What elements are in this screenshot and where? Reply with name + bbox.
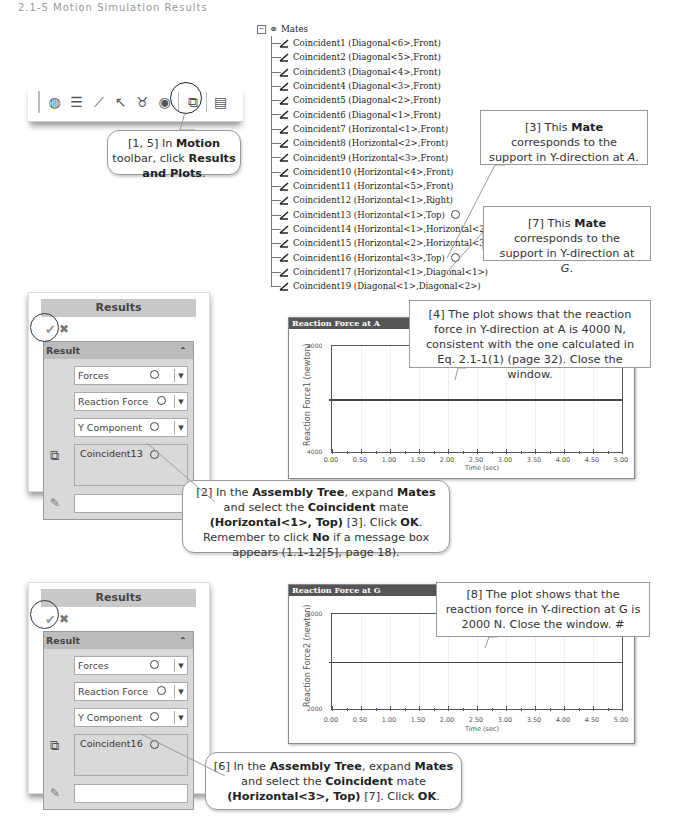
callout-text: corresponds to the support in Y-directio… xyxy=(489,136,628,164)
tree-item-label: Coincident16 (Horizontal<3>,Top) xyxy=(293,253,445,263)
subcategory-select[interactable]: Reaction Force▼ xyxy=(74,392,188,411)
marker-circle xyxy=(150,450,159,459)
x-tick-label: 1.50 xyxy=(406,456,430,464)
x-tick-mark xyxy=(550,451,551,454)
coincident-mate-icon xyxy=(279,167,289,177)
assembly-tree: − ⚭ Mates Coincident1 (Diagonal<6>,Front… xyxy=(257,22,495,293)
page-header: 2.1-5 Motion Simulation Results xyxy=(18,2,208,13)
selection-list[interactable]: Coincident13 xyxy=(74,444,188,486)
properties-icon[interactable]: ▤ xyxy=(212,94,229,111)
x-tick-label: 2.00 xyxy=(435,456,459,464)
tree-item-mate[interactable]: Coincident11 (Horizontal<5>,Front) xyxy=(257,179,495,193)
x-tick-label: 4.50 xyxy=(580,716,604,724)
chevron-down-icon[interactable]: ▼ xyxy=(174,659,187,672)
tree-root-mates[interactable]: − ⚭ Mates xyxy=(257,22,495,36)
chevron-down-icon[interactable]: ▼ xyxy=(174,421,187,434)
component-select[interactable]: Y Component▼ xyxy=(74,708,188,727)
callout-step-3: [3] This Mate corresponds to the support… xyxy=(480,110,648,165)
panel-title: Results xyxy=(41,589,196,607)
result-group-label: Result xyxy=(46,345,80,356)
component-selection-icon: ⧉ xyxy=(50,448,59,464)
tree-item-mate[interactable]: Coincident19 (Diagonal<1>,Diagonal<2>) xyxy=(257,279,495,293)
callout-bold: Mate xyxy=(571,121,603,134)
coincident-mate-icon xyxy=(279,252,289,262)
tree-item-mate[interactable]: Coincident4 (Diagonal<3>,Front) xyxy=(257,79,495,93)
callout-text: corresponds to the support in Y-directio… xyxy=(500,232,635,260)
force-arrow-icon[interactable]: ↖ xyxy=(112,94,129,111)
x-tick-mark xyxy=(492,708,493,711)
callout-text: , expand xyxy=(362,760,415,773)
category-select[interactable]: Forces▼ xyxy=(74,656,188,675)
callout-text: . xyxy=(436,790,440,803)
coincident-mate-icon xyxy=(279,238,289,248)
x-tick-label: 3.00 xyxy=(493,716,517,724)
x-tick-mark xyxy=(477,449,478,454)
tree-item-label: Coincident6 (Diagonal<1>,Front) xyxy=(293,110,441,120)
cancel-button[interactable]: ✖ xyxy=(59,322,69,336)
cancel-button[interactable]: ✖ xyxy=(59,612,69,626)
motor-icon[interactable]: ♉ xyxy=(134,94,151,111)
subcategory-select[interactable]: Reaction Force▼ xyxy=(74,682,188,701)
y-tick-bottom: 4000 xyxy=(307,448,322,455)
tree-item-label: Coincident4 (Diagonal<3>,Front) xyxy=(293,81,441,91)
selection-list[interactable]: Coincident16 xyxy=(74,734,188,776)
x-tick-mark xyxy=(535,449,536,454)
tree-item-mate[interactable]: Coincident3 (Diagonal<4>,Front) xyxy=(257,65,495,79)
chevron-down-icon[interactable]: ▼ xyxy=(174,369,187,382)
component-select[interactable]: Y Component▼ xyxy=(74,418,188,437)
chevron-down-icon[interactable]: ▼ xyxy=(174,685,187,698)
x-tick-mark xyxy=(579,451,580,454)
callout-text: and select the xyxy=(224,501,308,514)
callout-bold: Mates xyxy=(397,486,436,499)
highlight-circle xyxy=(30,600,59,629)
tree-item-mate[interactable]: Coincident15 (Horizontal<2>,Horizontal<3… xyxy=(257,236,495,250)
tree-item-mate[interactable]: Coincident10 (Horizontal<4>,Front) xyxy=(257,165,495,179)
stack-icon[interactable]: ☰ xyxy=(68,94,85,111)
tree-item-mate[interactable]: Coincident7 (Horizontal<1>,Front) xyxy=(257,122,495,136)
plot-selection-field[interactable] xyxy=(74,494,188,513)
x-tick-label: 0.00 xyxy=(319,716,343,724)
result-group-header[interactable]: Result ⌃ xyxy=(44,342,193,359)
chevron-down-icon[interactable]: ▼ xyxy=(174,711,187,724)
tree-item-mate[interactable]: Coincident8 (Horizontal<2>,Front) xyxy=(257,136,495,150)
tree-item-label: Coincident5 (Diagonal<2>,Front) xyxy=(293,95,441,105)
x-tick-label: 0.50 xyxy=(348,716,372,724)
chevron-down-icon[interactable]: ▼ xyxy=(174,395,187,408)
category-select[interactable]: Forces▼ xyxy=(74,366,188,385)
x-tick-mark xyxy=(521,451,522,454)
x-tick-mark xyxy=(376,708,377,711)
marker-circle xyxy=(451,210,460,219)
plot-icon: ✎ xyxy=(50,786,60,800)
tree-item-mate[interactable]: Coincident17 (Horizontal<1>,Diagonal<1>) xyxy=(257,265,495,279)
tree-item-mate[interactable]: Coincident5 (Diagonal<2>,Front) xyxy=(257,93,495,107)
x-tick-label: 4.50 xyxy=(580,456,604,464)
tree-item-mate[interactable]: Coincident9 (Horizontal<3>,Front) xyxy=(257,150,495,164)
callout-text: mate xyxy=(375,501,408,514)
plot-selection-field[interactable] xyxy=(74,784,188,803)
callout-bold: Assembly Tree xyxy=(252,486,344,499)
tree-item-mate[interactable]: Coincident1 (Diagonal<6>,Front) xyxy=(257,36,495,50)
tree-item-mate[interactable]: Coincident12 (Horizontal<1>,Right) xyxy=(257,193,495,207)
tree-item-mate[interactable]: Coincident16 (Horizontal<3>,Top) xyxy=(257,250,495,264)
tree-item-mate[interactable]: Coincident6 (Diagonal<1>,Front) xyxy=(257,107,495,121)
x-tick-mark xyxy=(622,449,623,454)
tree-item-mate[interactable]: Coincident14 (Horizontal<1>,Horizontal<2… xyxy=(257,222,495,236)
tree-item-mate[interactable]: Coincident2 (Diagonal<5>,Front) xyxy=(257,50,495,64)
tree-item-mate[interactable]: Coincident13 (Horizontal<1>,Top) xyxy=(257,208,495,222)
tree-item-label: Coincident8 (Horizontal<2>,Front) xyxy=(293,138,448,148)
collapse-chevron-icon[interactable]: ⌃ xyxy=(179,345,187,356)
coincident-mate-icon xyxy=(279,81,289,91)
collapse-icon[interactable]: − xyxy=(257,25,266,34)
callout-text: [6] In the xyxy=(214,760,270,773)
collapse-chevron-icon[interactable]: ⌃ xyxy=(179,635,187,646)
callout-text: [7]. Click xyxy=(361,790,418,803)
x-tick-label: 1.50 xyxy=(406,716,430,724)
result-group-header[interactable]: Result ⌃ xyxy=(44,632,193,649)
spring-icon[interactable]: ⟋ xyxy=(90,94,107,111)
x-tick-mark xyxy=(390,706,391,711)
motion-study-icon[interactable]: ◍ xyxy=(46,94,63,111)
coincident-mate-icon xyxy=(279,109,289,119)
result-group-label: Result xyxy=(46,635,80,646)
callout-bold: Coincident xyxy=(325,775,393,788)
x-tick-mark xyxy=(419,706,420,711)
